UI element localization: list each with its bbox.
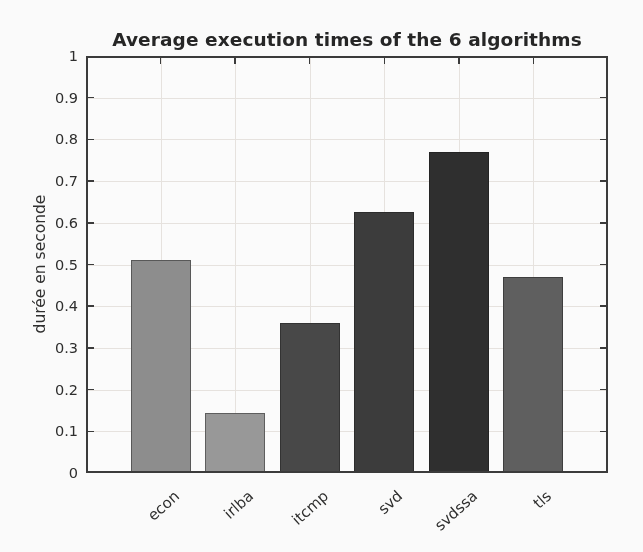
y-tick-mark bbox=[88, 97, 94, 99]
y-tick-label-0: 0 bbox=[36, 464, 78, 482]
y-tick-mark bbox=[600, 264, 606, 266]
y-tick-label-0.2: 0.2 bbox=[36, 381, 78, 399]
y-tick-label-0.5: 0.5 bbox=[36, 256, 78, 274]
y-tick-mark bbox=[88, 264, 94, 266]
y-tick-label-0.9: 0.9 bbox=[36, 89, 78, 107]
horizontal-gridline bbox=[88, 181, 606, 182]
y-tick-label-0.3: 0.3 bbox=[36, 339, 78, 357]
y-tick-label-0.6: 0.6 bbox=[36, 214, 78, 232]
horizontal-gridline bbox=[88, 139, 606, 140]
bar-svdssa bbox=[429, 152, 489, 471]
x-tick-mark bbox=[234, 58, 236, 64]
x-tick-mark bbox=[384, 58, 386, 64]
y-tick-mark bbox=[600, 305, 606, 307]
chart-title: Average execution times of the 6 algorit… bbox=[86, 29, 608, 50]
bar-econ bbox=[131, 260, 191, 471]
y-tick-label-0.7: 0.7 bbox=[36, 172, 78, 190]
x-tick-mark bbox=[458, 58, 460, 64]
bar-irlba bbox=[205, 413, 265, 471]
bar-chart-figure: Average execution times of the 6 algorit… bbox=[0, 0, 643, 552]
y-tick-mark bbox=[600, 97, 606, 99]
y-tick-label-0.4: 0.4 bbox=[36, 297, 78, 315]
horizontal-gridline bbox=[88, 223, 606, 224]
y-tick-mark bbox=[88, 180, 94, 182]
x-tick-mark bbox=[533, 58, 535, 64]
horizontal-gridline bbox=[88, 98, 606, 99]
y-tick-mark bbox=[600, 222, 606, 224]
y-tick-mark bbox=[600, 139, 606, 141]
x-tick-label-econ: econ bbox=[81, 487, 183, 552]
bar-itcmp bbox=[280, 323, 340, 471]
y-tick-mark bbox=[600, 431, 606, 433]
y-tick-mark bbox=[88, 222, 94, 224]
y-tick-label-1: 1 bbox=[36, 47, 78, 65]
y-tick-label-0.8: 0.8 bbox=[36, 130, 78, 148]
y-tick-label-0.1: 0.1 bbox=[36, 422, 78, 440]
y-tick-mark bbox=[88, 431, 94, 433]
y-tick-mark bbox=[600, 347, 606, 349]
y-tick-mark bbox=[88, 305, 94, 307]
y-tick-mark bbox=[88, 347, 94, 349]
plot-area bbox=[86, 56, 608, 473]
y-tick-mark bbox=[88, 139, 94, 141]
x-tick-mark bbox=[309, 58, 311, 64]
vertical-gridline bbox=[235, 58, 236, 471]
y-tick-mark bbox=[600, 389, 606, 391]
bar-tls bbox=[503, 277, 563, 471]
x-tick-mark bbox=[160, 58, 162, 64]
y-tick-mark bbox=[600, 180, 606, 182]
y-tick-mark bbox=[88, 389, 94, 391]
bar-svd bbox=[354, 212, 414, 471]
